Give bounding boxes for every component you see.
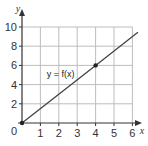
annotations: y = f(x) bbox=[47, 69, 75, 79]
y-tick-label: 8 bbox=[11, 40, 17, 52]
y-tick-label: 6 bbox=[11, 59, 17, 71]
origin-label: 0 bbox=[11, 125, 17, 137]
x-tick-label: 4 bbox=[93, 127, 99, 139]
x-tick-label: 6 bbox=[129, 127, 135, 139]
grid-lines bbox=[22, 27, 132, 123]
y-tick-label: 2 bbox=[11, 98, 17, 110]
tick-labels: 1234562468100xy bbox=[5, 3, 145, 139]
x-tick-label: 5 bbox=[111, 127, 117, 139]
y-tick-label: 4 bbox=[11, 79, 17, 91]
y-axis-label: y bbox=[15, 3, 21, 14]
line-chart: 1234562468100xy y = f(x) bbox=[0, 0, 148, 146]
data-point bbox=[20, 121, 24, 125]
data-point bbox=[93, 63, 97, 67]
function-label: y = f(x) bbox=[47, 69, 75, 79]
x-tick-label: 2 bbox=[56, 127, 62, 139]
x-axis-label: x bbox=[139, 125, 145, 136]
x-tick-label: 3 bbox=[74, 127, 80, 139]
y-tick-label: 10 bbox=[5, 21, 17, 33]
x-tick-label: 1 bbox=[37, 127, 43, 139]
